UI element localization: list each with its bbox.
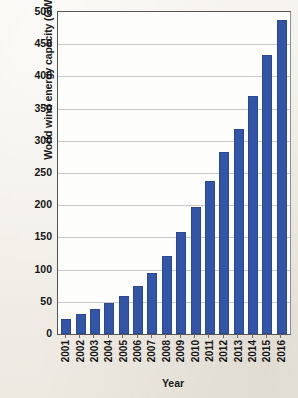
bar-slot xyxy=(160,12,174,334)
bar xyxy=(234,129,244,334)
bar xyxy=(162,256,172,334)
x-axis-tick-label: 2010 xyxy=(189,340,200,362)
x-label-slot: 2001 xyxy=(58,340,72,374)
bar-slot xyxy=(275,12,289,334)
x-label-slot: 2003 xyxy=(87,340,101,374)
bar xyxy=(262,55,272,334)
x-axis-tick-label: 2014 xyxy=(247,340,258,362)
chart-figure: World wind energy capacity (GW) 05010015… xyxy=(0,0,298,398)
x-axis-tick-label: 2004 xyxy=(103,340,114,362)
x-tick-slot xyxy=(187,334,201,339)
x-axis-tick-mark xyxy=(266,334,267,338)
bar xyxy=(119,296,129,334)
bar xyxy=(205,181,215,334)
x-axis-tick-mark xyxy=(151,334,152,338)
x-label-slot: 2004 xyxy=(101,340,115,374)
x-axis-tick-label: 2012 xyxy=(218,340,229,362)
x-axis-tick-label: 2007 xyxy=(146,340,157,362)
bar-slot xyxy=(88,12,102,334)
x-axis-tick-mark xyxy=(223,334,224,338)
x-axis-tick-mark xyxy=(93,334,94,338)
bar xyxy=(90,309,100,334)
bar-slot xyxy=(117,12,131,334)
x-axis-tick-label: 2002 xyxy=(74,340,85,362)
x-label-slot: 2014 xyxy=(245,340,259,374)
x-axis-tick-mark xyxy=(180,334,181,338)
x-axis-tick-label: 2008 xyxy=(160,340,171,362)
y-axis-tick-label: 100 xyxy=(18,263,52,275)
x-axis-tick-label: 2013 xyxy=(232,340,243,362)
y-axis-tick-label: 150 xyxy=(18,230,52,242)
bar-slot xyxy=(174,12,188,334)
x-tick-slot xyxy=(87,334,101,339)
x-tick-slot xyxy=(202,334,216,339)
x-axis-title: Year xyxy=(57,377,289,389)
bar-slot xyxy=(59,12,73,334)
x-tick-slot xyxy=(72,334,86,339)
x-label-slot: 2005 xyxy=(116,340,130,374)
x-axis-tick-mark xyxy=(165,334,166,338)
y-axis-tick-label: 250 xyxy=(18,166,52,178)
bar xyxy=(277,20,287,334)
x-label-slot: 2009 xyxy=(173,340,187,374)
x-axis-tick-labels: 2001200220032004200520062007200820092010… xyxy=(57,340,289,374)
x-axis-tick-mark xyxy=(79,334,80,338)
x-tick-slot xyxy=(116,334,130,339)
x-label-slot: 2012 xyxy=(216,340,230,374)
bar xyxy=(104,303,114,334)
bar-slot xyxy=(246,12,260,334)
y-axis-tick-label: 400 xyxy=(18,69,52,81)
x-label-slot: 2006 xyxy=(130,340,144,374)
x-label-slot: 2010 xyxy=(187,340,201,374)
x-tick-slot xyxy=(259,334,273,339)
x-axis-tick-mark xyxy=(108,334,109,338)
x-tick-slot xyxy=(274,334,288,339)
x-tick-slot xyxy=(130,334,144,339)
x-label-slot: 2008 xyxy=(159,340,173,374)
x-tick-slot xyxy=(245,334,259,339)
x-label-slot: 2015 xyxy=(259,340,273,374)
plot-area xyxy=(57,11,291,335)
bar-slot xyxy=(217,12,231,334)
x-axis-tick-label: 2006 xyxy=(132,340,143,362)
x-axis-tick-mark xyxy=(137,334,138,338)
y-axis-tick-label: 500 xyxy=(18,5,52,17)
y-axis-tick-label: 200 xyxy=(18,198,52,210)
bar xyxy=(219,152,229,334)
bar-slot xyxy=(145,12,159,334)
y-axis-tick-label: 50 xyxy=(18,295,52,307)
x-axis-tick-mark xyxy=(208,334,209,338)
bar-slot xyxy=(102,12,116,334)
x-label-slot: 2013 xyxy=(231,340,245,374)
x-axis-tick-mark xyxy=(194,334,195,338)
x-tick-slot xyxy=(159,334,173,339)
y-axis-tick-label: 0 xyxy=(18,327,52,339)
x-axis-tick-mark xyxy=(122,334,123,338)
x-tick-slot xyxy=(101,334,115,339)
bar-slot xyxy=(188,12,202,334)
x-axis-tick-label: 2005 xyxy=(117,340,128,362)
y-axis-tick-labels: 050100150200250300350400450500 xyxy=(18,11,52,333)
x-tick-slot xyxy=(231,334,245,339)
bar xyxy=(176,232,186,334)
x-tick-slot xyxy=(216,334,230,339)
x-axis-tick-mark xyxy=(65,334,66,338)
y-axis-tick-label: 350 xyxy=(18,102,52,114)
x-axis-tick-mark xyxy=(237,334,238,338)
x-label-slot: 2007 xyxy=(144,340,158,374)
bar xyxy=(191,207,201,335)
x-axis-tick-label: 2016 xyxy=(275,340,286,362)
x-tick-slot xyxy=(58,334,72,339)
x-label-slot: 2011 xyxy=(202,340,216,374)
bar xyxy=(61,319,71,334)
bar-series xyxy=(58,12,290,334)
bar-slot xyxy=(131,12,145,334)
bar xyxy=(76,314,86,334)
x-axis-tick-label: 2003 xyxy=(88,340,99,362)
x-label-slot: 2002 xyxy=(72,340,86,374)
bar-slot xyxy=(203,12,217,334)
x-axis-tick-label: 2001 xyxy=(60,340,71,362)
x-axis-tick-mark xyxy=(252,334,253,338)
x-label-slot: 2016 xyxy=(274,340,288,374)
x-axis-tick-mark xyxy=(280,334,281,338)
